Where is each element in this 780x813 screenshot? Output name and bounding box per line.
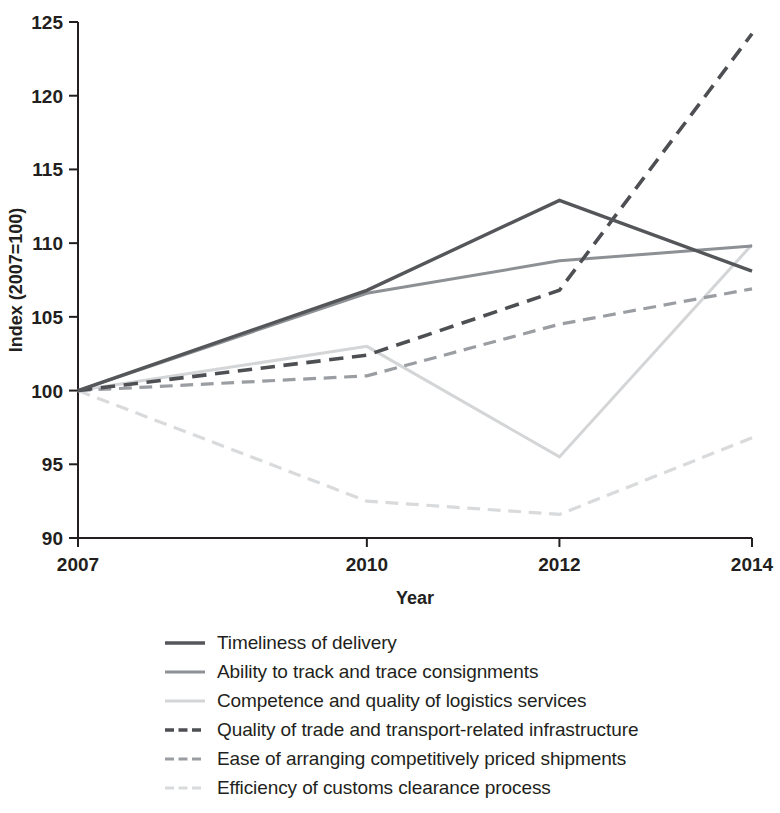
legend-item-label: Efficiency of customs clearance process	[217, 777, 551, 799]
y-tick-label: 105	[31, 307, 63, 328]
line-chart-figure: 90951001051101151201252007201020122014Ye…	[0, 0, 780, 813]
x-tick-label: 2010	[346, 554, 388, 575]
legend-swatch-icon	[165, 636, 205, 650]
x-tick-label: 2007	[57, 554, 99, 575]
y-tick-label: 110	[32, 233, 63, 254]
chart-legend: Timeliness of deliveryAbility to track a…	[165, 628, 765, 802]
legend-swatch-icon	[165, 781, 205, 795]
legend-swatch-icon	[165, 694, 205, 708]
legend-item-1[interactable]: Ability to track and trace consignments	[165, 657, 765, 686]
legend-swatch-icon	[165, 723, 205, 737]
legend-item-label: Competence and quality of logistics serv…	[217, 690, 586, 712]
x-tick-label: 2012	[538, 554, 580, 575]
legend-item-0[interactable]: Timeliness of delivery	[165, 628, 765, 657]
y-tick-label: 120	[31, 86, 63, 107]
y-tick-label: 95	[42, 454, 64, 475]
legend-item-label: Ability to track and trace consignments	[217, 661, 538, 683]
legend-item-label: Quality of trade and transport-related i…	[217, 719, 638, 741]
series-line-2	[78, 245, 752, 457]
legend-swatch-icon	[165, 665, 205, 679]
chart-plot-area: 90951001051101151201252007201020122014Ye…	[0, 0, 780, 620]
y-axis-title: Index (2007=100)	[6, 208, 26, 353]
legend-swatch-icon	[165, 752, 205, 766]
legend-item-3[interactable]: Quality of trade and transport-related i…	[165, 715, 765, 744]
legend-item-5[interactable]: Efficiency of customs clearance process	[165, 773, 765, 802]
x-tick-label: 2014	[731, 554, 774, 575]
y-tick-label: 90	[42, 528, 63, 549]
series-line-3	[78, 34, 752, 391]
legend-item-4[interactable]: Ease of arranging competitively priced s…	[165, 744, 765, 773]
y-tick-label: 115	[32, 159, 63, 180]
legend-item-2[interactable]: Competence and quality of logistics serv…	[165, 686, 765, 715]
y-tick-label: 125	[31, 12, 63, 33]
legend-item-label: Ease of arranging competitively priced s…	[217, 748, 626, 770]
x-axis-title: Year	[396, 588, 434, 608]
series-line-5	[78, 391, 752, 515]
legend-item-label: Timeliness of delivery	[217, 632, 397, 654]
y-tick-label: 100	[31, 381, 63, 402]
